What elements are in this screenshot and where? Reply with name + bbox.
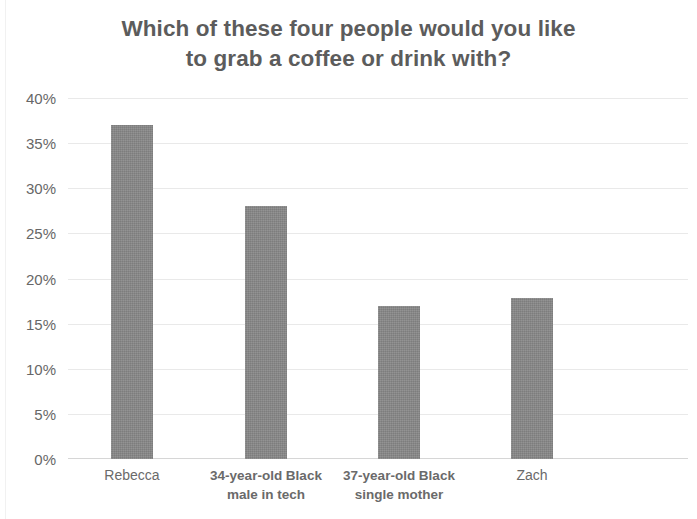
- x-label-mother-line-1: 37-year-old Black: [324, 466, 474, 485]
- y-tick-25: 25%: [26, 226, 56, 241]
- x-label-tech-line-2: male in tech: [191, 485, 341, 504]
- y-tick-30: 30%: [26, 181, 56, 196]
- plot-area: [68, 98, 688, 459]
- y-tick-40: 40%: [26, 91, 56, 106]
- bar-34-year-old-black-male-in-tech[interactable]: [245, 206, 287, 459]
- x-axis-category-labels: Rebecca 34-year-old Black male in tech 3…: [68, 466, 688, 518]
- y-tick-15: 15%: [26, 317, 56, 332]
- y-tick-35: 35%: [26, 136, 56, 151]
- chart-title: Which of these four people would you lik…: [0, 14, 697, 74]
- bar-zach[interactable]: [511, 298, 553, 459]
- chart-title-line-2: to grab a coffee or drink with?: [0, 44, 697, 74]
- x-label-tech-line-1: 34-year-old Black: [191, 466, 341, 485]
- x-label-37-year-old-black-single-mother: 37-year-old Black single mother: [324, 466, 474, 504]
- x-label-zach-line-1: Zach: [457, 466, 607, 485]
- bar-rebecca[interactable]: [111, 125, 153, 459]
- x-label-mother-line-2: single mother: [324, 485, 474, 504]
- bar-chart: Which of these four people would you lik…: [0, 0, 697, 519]
- x-label-rebecca-line-1: Rebecca: [57, 466, 207, 485]
- y-tick-20: 20%: [26, 272, 56, 287]
- y-axis-tick-labels: 40% 35% 30% 25% 20% 15% 10% 5% 0%: [0, 0, 68, 519]
- x-label-rebecca: Rebecca: [57, 466, 207, 485]
- bar-37-year-old-black-single-mother[interactable]: [378, 306, 420, 459]
- bars-layer: [68, 98, 688, 459]
- y-tick-5: 5%: [34, 407, 56, 422]
- x-label-zach: Zach: [457, 466, 607, 485]
- y-tick-0: 0%: [34, 452, 56, 467]
- chart-title-line-1: Which of these four people would you lik…: [0, 14, 697, 44]
- x-label-34-year-old-black-male-in-tech: 34-year-old Black male in tech: [191, 466, 341, 504]
- y-tick-10: 10%: [26, 362, 56, 377]
